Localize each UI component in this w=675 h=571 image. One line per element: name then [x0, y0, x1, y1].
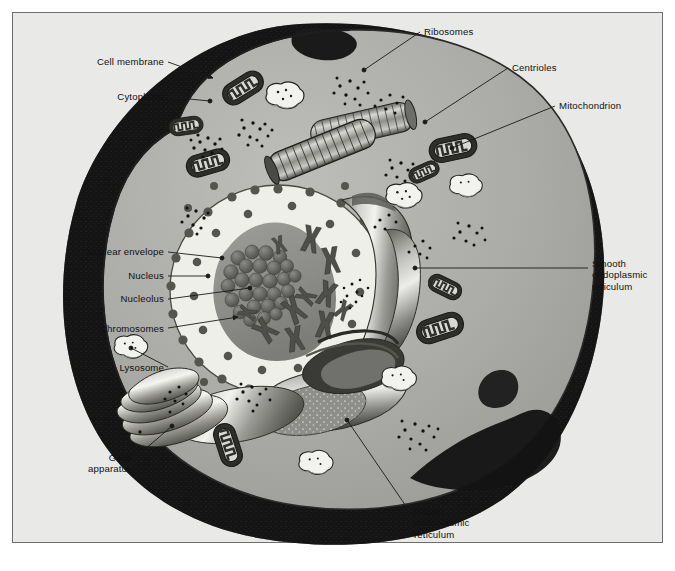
label-centrioles: Centrioles [512, 62, 582, 73]
label-chromosomes: Chromosomes [45, 323, 164, 334]
leader-dot-nucleolus [248, 286, 252, 290]
leader-dot-rough-er [345, 418, 349, 422]
leader-dot-mitochondrion [450, 146, 454, 150]
leader-dot-cytoplasm [208, 99, 212, 103]
label-golgi-apparatus: Golgi apparatus [60, 452, 132, 475]
label-nucleolus: Nucleolus [71, 293, 164, 304]
label-nuclear-envelope: Nuclear envelope [31, 246, 164, 257]
leader-dot-centrioles [423, 120, 427, 124]
label-smooth-er: Smooth endoplasmic reticulum [592, 258, 670, 292]
label-rough-er: Rough endoplasmic reticulum [414, 506, 494, 540]
leader-dot-golgi-apparatus [170, 424, 174, 428]
leader-dot-ribosomes [362, 68, 366, 72]
cell-diagram-artwork [0, 0, 675, 571]
leader-dot-smooth-er [413, 266, 417, 270]
figure-canvas: Cell membraneCytoplasmRibosomesCentriole… [0, 0, 675, 571]
leader-dot-nucleus [206, 274, 210, 278]
leader-dot-lysosome [129, 346, 133, 350]
label-cell-membrane: Cell membrane [72, 56, 164, 67]
leader-dot-nuclear-envelope [220, 256, 224, 260]
label-ribosomes: Ribosomes [424, 26, 504, 37]
label-lysosome: Lysosome [72, 362, 164, 373]
label-cytoplasm: Cytoplasm [59, 91, 164, 102]
label-mitochondrion: Mitochondrion [559, 100, 654, 111]
label-nucleus: Nucleus [79, 270, 164, 281]
